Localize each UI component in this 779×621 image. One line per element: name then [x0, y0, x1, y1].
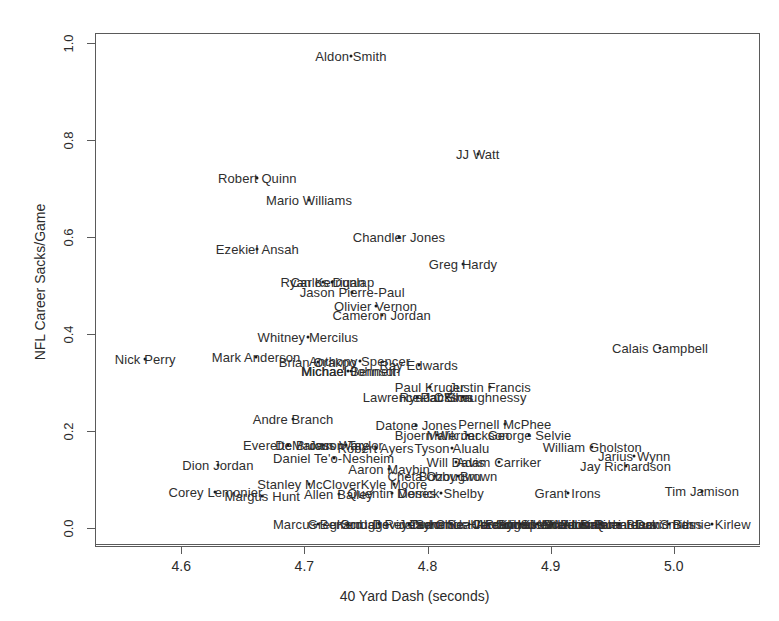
data-point-label: Cameron Jordan	[333, 309, 431, 322]
data-point-label: Robert Quinn	[218, 172, 297, 185]
data-point-label: Dion Jordan	[182, 459, 253, 472]
y-tick-mark	[87, 334, 95, 335]
data-point-label: Ezekiel Ansah	[216, 243, 299, 256]
y-tick-mark	[87, 237, 95, 238]
data-point-label: Jason Pierre-Paul	[300, 285, 405, 298]
y-tick-label: 0.4	[61, 320, 76, 348]
x-tick-label: 4.6	[161, 558, 201, 574]
data-point-label: Chandler Jones	[353, 230, 445, 243]
y-tick-mark	[87, 140, 95, 141]
x-tick-mark	[674, 546, 675, 554]
data-point-label: JJ Watt	[456, 148, 500, 161]
data-point-label: Jay Richardson	[580, 459, 671, 472]
x-tick-label: 4.9	[531, 558, 571, 574]
x-tick-mark	[428, 546, 429, 554]
data-point-label: Andre Branch	[253, 413, 334, 426]
data-point-label: Margus Hunt	[224, 490, 300, 503]
x-tick-label: 4.7	[284, 558, 324, 574]
data-point-label: Tyson Alualu	[414, 442, 489, 455]
y-tick-label: 0.6	[61, 223, 76, 251]
x-tick-label: 4.8	[408, 558, 448, 574]
y-tick-label: 1.0	[61, 29, 76, 57]
scatter-plot: NFL Career Sacks/Game 40 Yard Dash (seco…	[0, 0, 779, 621]
data-point-label: Calais Campbell	[612, 341, 708, 354]
y-tick-label: 0.0	[61, 515, 76, 543]
data-point-label: Mario Williams	[266, 194, 352, 207]
data-point-label: Allen Bailey	[304, 488, 373, 501]
data-point-label: Tim Jamison	[665, 485, 739, 498]
x-tick-label: 5.0	[654, 558, 694, 574]
data-point-label: Whitney Mercilus	[258, 330, 359, 343]
data-point-label: Nick Perry	[115, 353, 176, 366]
y-tick-label: 0.2	[61, 417, 76, 445]
data-point-label: Ray Edwards	[379, 359, 457, 372]
x-axis-label: 40 Yard Dash (seconds)	[0, 588, 779, 604]
data-point-label: Bobby Brown	[419, 469, 497, 482]
data-point-label: Derrick Shelby	[398, 487, 484, 500]
x-tick-mark	[181, 546, 182, 554]
data-point-label: Aldon Smith	[315, 49, 386, 62]
plot-area: Aldon SmithJJ WattRobert QuinnMario Will…	[95, 33, 760, 545]
data-point-label: Ryan O'Shaughnessy	[399, 391, 526, 404]
data-point-label: David Bass	[635, 518, 702, 531]
y-tick-mark	[87, 431, 95, 432]
data-point-label: Adam Carriker	[456, 455, 541, 468]
x-tick-mark	[304, 546, 305, 554]
y-axis-label: NFL Career Sacks/Game	[32, 182, 48, 382]
x-tick-mark	[551, 546, 552, 554]
y-tick-mark	[87, 528, 95, 529]
data-point-label: Grant Irons	[535, 487, 601, 500]
y-tick-mark	[87, 43, 95, 44]
data-point-label: Greg Hardy	[429, 258, 497, 271]
y-tick-label: 0.8	[61, 126, 76, 154]
